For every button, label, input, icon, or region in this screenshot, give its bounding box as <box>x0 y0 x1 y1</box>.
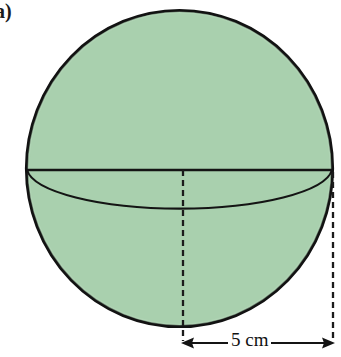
sphere-diagram: a) 5 cm <box>0 0 341 357</box>
dimension-label: 5 cm <box>228 330 271 349</box>
part-label: a) <box>0 1 12 21</box>
sphere-figure-svg <box>0 0 341 357</box>
